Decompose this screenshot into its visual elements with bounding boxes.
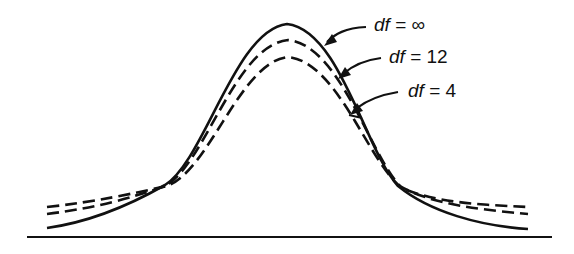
- label-df-12: df = 12: [389, 46, 448, 67]
- label-df-infinity: df = ∞: [374, 14, 425, 35]
- curve-df-infinity: [47, 24, 528, 229]
- arrow-df-infinity: [324, 27, 366, 46]
- arrow-df-4: [349, 92, 398, 118]
- curve-df-12: [47, 40, 528, 214]
- label-df-4: df = 4: [408, 80, 457, 101]
- t-distribution-chart: df = ∞ df = 12 df = 4: [0, 0, 574, 254]
- arrow-df-12: [338, 58, 381, 79]
